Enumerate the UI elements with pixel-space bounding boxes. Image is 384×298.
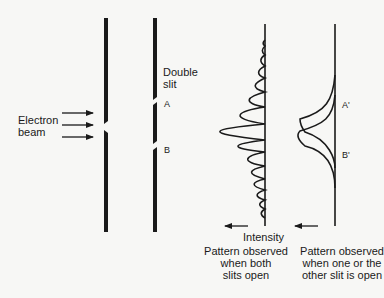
double-slit-barrier xyxy=(153,18,157,232)
double-slit-label-line2: slit xyxy=(163,78,176,90)
screen-b-prime-label: B' xyxy=(342,149,350,161)
caption-both-line1: Pattern observed xyxy=(198,245,294,257)
caption-one-line1: Pattern observed xyxy=(298,245,384,257)
single-slit-pattern xyxy=(295,24,335,226)
intensity-axis-label: Intensity xyxy=(243,231,284,243)
electron-beam-label-line1: Electron xyxy=(18,114,58,126)
slit-b-label: B xyxy=(164,144,170,156)
caption-one-slit: Pattern observed when one or the other s… xyxy=(298,245,384,281)
electron-beam-label-line2: beam xyxy=(18,126,46,138)
caption-both-slits: Pattern observed when both slits open xyxy=(198,245,294,281)
caption-both-line3: slits open xyxy=(198,269,294,281)
slit-a-label: A xyxy=(164,98,170,110)
double-slit-label-line1: Double xyxy=(163,66,198,78)
electron-beam-arrows xyxy=(62,113,93,137)
screen-a-prime-label: A' xyxy=(342,99,350,111)
caption-one-line3: other slit is open xyxy=(298,269,384,281)
interference-pattern xyxy=(220,24,265,226)
caption-both-line2: when both xyxy=(198,257,294,269)
caption-one-line2: when one or the xyxy=(298,257,384,269)
single-slit-barrier xyxy=(104,18,108,232)
